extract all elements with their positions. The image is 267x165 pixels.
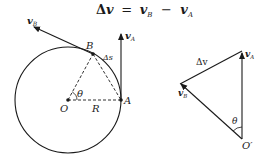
triangle-delta-v-side xyxy=(180,51,242,84)
triangle-label-theta: θ xyxy=(232,116,238,126)
label-delta-s: Δs xyxy=(102,53,113,62)
velocity-vB-arrow xyxy=(34,27,93,54)
point-O xyxy=(66,98,70,102)
label-O-prime: O′ xyxy=(242,140,253,151)
equation-title: Δv = vB − vA xyxy=(96,2,193,20)
vector-triangle-figure: Δv vA vB θ O′ xyxy=(178,49,254,151)
label-vA: vA xyxy=(125,30,136,42)
triangle-label-vB: vB xyxy=(178,88,187,99)
point-B xyxy=(91,52,95,56)
point-A xyxy=(119,98,123,102)
label-O: O xyxy=(60,103,68,114)
uniform-circular-motion-diagram: Δv = vB − vA vB vA xyxy=(0,0,267,165)
triangle-label-vA: vA xyxy=(245,49,254,60)
label-delta-v: Δv xyxy=(196,57,208,67)
label-theta: θ xyxy=(77,88,83,99)
diagram-svg: Δv = vB − vA vB vA xyxy=(0,0,267,165)
triangle-theta-arc xyxy=(233,127,242,131)
label-A: A xyxy=(123,95,131,106)
label-R: R xyxy=(91,103,100,114)
label-B: B xyxy=(85,40,93,51)
circle-figure: vB vA B Δs θ O R A xyxy=(15,15,136,153)
label-vB: vB xyxy=(27,15,38,27)
